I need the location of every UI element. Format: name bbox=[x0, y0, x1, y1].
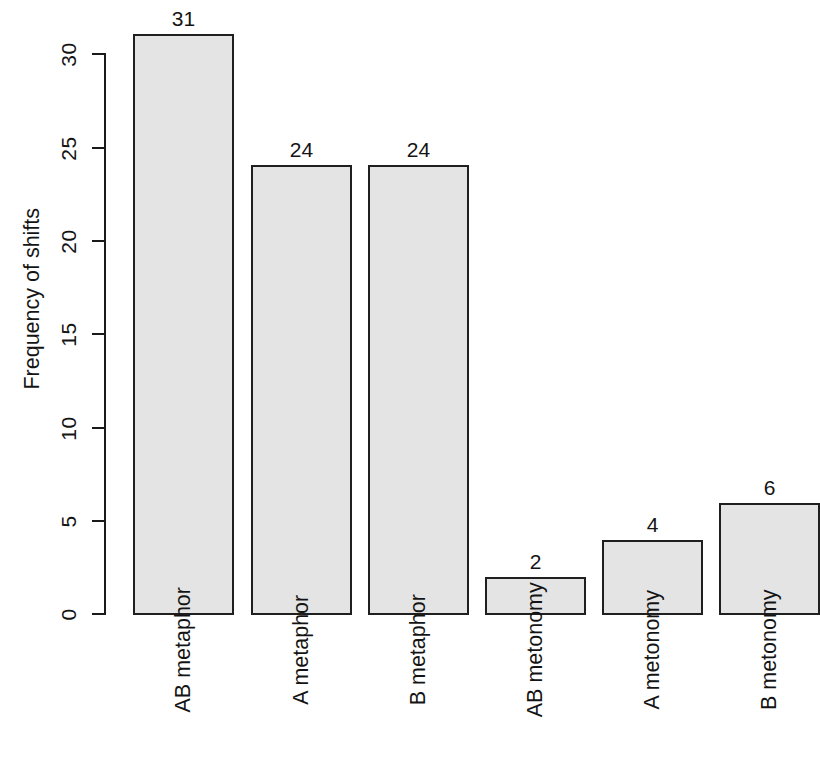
y-axis-tick-label-20: 20 bbox=[58, 221, 79, 261]
bar-value-b-metaphor: 24 bbox=[368, 139, 469, 160]
x-axis-label-a-metaphor-wrap: A metaphor bbox=[251, 628, 352, 778]
y-axis-tick-label-5: 5 bbox=[58, 501, 79, 541]
y-axis-tick-label-30-wrap: 30 bbox=[48, 34, 88, 74]
y-axis-tick-label-25-wrap: 25 bbox=[48, 128, 88, 168]
y-axis-tick-25 bbox=[92, 147, 105, 149]
bar-value-ab-metonomy: 2 bbox=[485, 551, 586, 572]
x-axis-label-ab-metaphor-wrap: AB metaphor bbox=[133, 628, 234, 778]
y-axis-tick-label-30: 30 bbox=[58, 34, 79, 74]
y-axis-tick-30 bbox=[92, 53, 105, 55]
bar-a-metaphor bbox=[251, 165, 352, 615]
y-axis-tick-label-0: 0 bbox=[58, 594, 79, 634]
y-axis-tick-label-10-wrap: 10 bbox=[48, 408, 88, 448]
x-axis-label-b-metaphor-wrap: B metaphor bbox=[368, 628, 469, 778]
y-axis-tick-20 bbox=[92, 240, 105, 242]
y-axis-tick-label-25: 25 bbox=[58, 128, 79, 168]
bar-ab-metaphor bbox=[133, 34, 234, 615]
x-axis-label-a-metonomy: A metonomy bbox=[642, 590, 664, 710]
y-axis-tick-15 bbox=[92, 333, 105, 335]
y-axis-tick-label-10: 10 bbox=[58, 408, 79, 448]
x-axis-label-b-metaphor: B metaphor bbox=[408, 594, 430, 705]
bar-value-ab-metaphor: 31 bbox=[133, 8, 234, 29]
y-axis-tick-label-0-wrap: 0 bbox=[48, 594, 88, 634]
bar-value-a-metonomy: 4 bbox=[602, 514, 703, 535]
y-axis-tick-10 bbox=[92, 427, 105, 429]
x-axis-label-ab-metonomy-wrap: AB metonomy bbox=[485, 628, 586, 778]
y-axis-tick-0 bbox=[92, 613, 105, 615]
x-axis-label-ab-metaphor: AB metaphor bbox=[173, 587, 195, 712]
bar-b-metaphor bbox=[368, 165, 469, 615]
x-axis-label-b-metonomy: B metonomy bbox=[759, 589, 781, 710]
x-axis-label-a-metonomy-wrap: A metonomy bbox=[602, 628, 703, 778]
y-axis-tick-label-20-wrap: 20 bbox=[48, 221, 88, 261]
y-axis-title: Frequency of shifts bbox=[22, 159, 44, 439]
y-axis-tick-label-5-wrap: 5 bbox=[48, 501, 88, 541]
bar-value-b-metonomy: 6 bbox=[719, 477, 820, 498]
y-axis-tick-label-15: 15 bbox=[58, 314, 79, 354]
x-axis-label-b-metonomy-wrap: B metonomy bbox=[719, 628, 820, 778]
x-axis-label-ab-metonomy: AB metonomy bbox=[525, 582, 547, 717]
y-axis-tick-label-15-wrap: 15 bbox=[48, 314, 88, 354]
y-axis-tick-5 bbox=[92, 520, 105, 522]
x-axis-label-a-metaphor: A metaphor bbox=[291, 595, 313, 705]
bar-value-a-metaphor: 24 bbox=[251, 139, 352, 160]
